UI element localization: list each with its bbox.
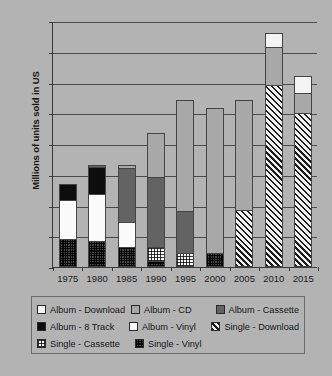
legend-swatch-icon <box>135 339 144 348</box>
x-axis-tick-label: 2015 <box>293 273 314 284</box>
bar-segment-album-vinyl <box>89 195 105 242</box>
stacked-bar[interactable] <box>265 33 283 267</box>
legend-item-album-cassette[interactable]: Album - Cassette <box>216 305 299 315</box>
bar-slot <box>230 22 259 267</box>
bar-segment-album-download <box>295 77 311 94</box>
x-axis-tick <box>318 267 319 271</box>
legend-label: Single - Cassette <box>50 339 120 349</box>
x-axis-tick-label: 2000 <box>204 273 225 284</box>
legend-item-single-vinyl[interactable]: Single - Vinyl <box>135 339 223 349</box>
x-axis-tick <box>171 267 172 271</box>
bar-segment-album-download <box>266 34 282 48</box>
legend-label: Album - Cassette <box>229 305 299 315</box>
stacked-bar[interactable] <box>206 108 224 267</box>
legend-swatch-icon <box>131 305 140 314</box>
bar-slot <box>171 22 200 267</box>
bar-segment-album-cd <box>207 109 223 254</box>
stacked-bar[interactable] <box>176 100 194 267</box>
stacked-bar[interactable] <box>88 165 106 267</box>
bar-segment-single-cassette <box>148 248 164 263</box>
bar-slot <box>112 22 141 267</box>
bar-segment-album-8track <box>60 185 76 202</box>
stacked-bar[interactable] <box>147 133 165 267</box>
bar-segment-album-cassette <box>119 169 135 223</box>
bar-segment-album-vinyl <box>119 223 135 248</box>
bar-segment-single-cassette <box>177 254 193 266</box>
legend-swatch-icon <box>37 339 46 348</box>
legend-item-album-8track[interactable]: Album - 8 Track <box>37 322 129 332</box>
legend-item-album-download[interactable]: Album - Download <box>37 305 131 315</box>
bar-segment-single-vinyl <box>89 242 105 266</box>
bar-slot <box>200 22 229 267</box>
x-axis-tick <box>53 267 54 271</box>
legend-swatch-icon <box>211 322 220 331</box>
legend-label: Single - Download <box>224 322 299 332</box>
bar-segment-single-vinyl <box>148 262 164 266</box>
legend-label: Album - Vinyl <box>142 322 196 332</box>
x-axis-tick <box>112 267 113 271</box>
stacked-bar[interactable] <box>59 184 77 267</box>
bar-segment-single-vinyl <box>60 240 76 266</box>
bar-segment-single-download <box>295 114 311 266</box>
bar-segment-single-download <box>266 86 282 266</box>
legend-swatch-icon <box>37 322 46 331</box>
bar-segment-album-cassette <box>148 178 164 248</box>
stacked-bar[interactable] <box>235 100 253 267</box>
legend-swatch-icon <box>37 305 46 314</box>
plot-area: 02004006008001000120014001600 1975198019… <box>52 22 317 268</box>
x-axis-tick <box>230 267 231 271</box>
bar-slot <box>82 22 111 267</box>
stacked-bar[interactable] <box>118 165 136 267</box>
bar-segment-single-vinyl <box>207 254 223 266</box>
chart-legend: Album - DownloadAlbum - CDAlbum - Casset… <box>31 296 305 354</box>
stacked-bar[interactable] <box>294 76 312 267</box>
x-axis-tick-label: 1980 <box>87 273 108 284</box>
x-axis-tick-label: 2010 <box>263 273 284 284</box>
legend-row: Album - DownloadAlbum - CDAlbum - Casset… <box>37 301 299 318</box>
bar-segment-album-cd <box>177 101 193 212</box>
legend-label: Single - Vinyl <box>148 339 201 349</box>
chart-container: Millions of units sold in US 02004006008… <box>0 0 332 376</box>
x-axis-tick <box>141 267 142 271</box>
bar-segment-album-cd <box>236 101 252 211</box>
bar-segment-album-vinyl <box>60 201 76 239</box>
legend-swatch-icon <box>129 322 138 331</box>
bar-slot <box>141 22 170 267</box>
bar-segment-album-cd <box>295 94 311 114</box>
x-axis-tick <box>200 267 201 271</box>
bar-segment-single-download <box>236 211 252 266</box>
legend-label: Album - 8 Track <box>50 322 114 332</box>
y-axis-title: Millions of units sold in US <box>30 36 41 226</box>
legend-label: Album - CD <box>144 305 191 315</box>
bar-slot <box>289 22 318 267</box>
x-axis-tick <box>82 267 83 271</box>
x-axis-tick-label: 1995 <box>175 273 196 284</box>
bar-segment-album-8track <box>89 168 105 196</box>
bar-segment-album-cd <box>148 134 164 178</box>
bar-segment-album-cd <box>266 48 282 86</box>
x-axis-tick-label: 1985 <box>116 273 137 284</box>
bar-slot <box>53 22 82 267</box>
legend-row: Single - CassetteSingle - Vinyl <box>37 335 299 352</box>
legend-row: Album - 8 TrackAlbum - VinylSingle - Dow… <box>37 318 299 335</box>
legend-rows: Album - DownloadAlbum - CDAlbum - Casset… <box>37 301 299 352</box>
bar-segment-album-cassette <box>177 212 193 254</box>
bar-slot <box>259 22 288 267</box>
legend-item-single-cassette[interactable]: Single - Cassette <box>37 339 135 349</box>
legend-item-album-cd[interactable]: Album - CD <box>131 305 215 315</box>
legend-label: Album - Download <box>50 305 125 315</box>
x-axis-tick-label: 1975 <box>57 273 78 284</box>
bar-segment-single-vinyl <box>119 248 135 266</box>
legend-item-single-download[interactable]: Single - Download <box>211 322 299 332</box>
legend-swatch-icon <box>216 305 225 314</box>
x-axis-tick <box>259 267 260 271</box>
bar-group: 197519801985199019952000200520102015 <box>53 22 317 267</box>
legend-item-album-vinyl[interactable]: Album - Vinyl <box>129 322 212 332</box>
x-axis-tick-label: 2005 <box>234 273 255 284</box>
x-axis-tick <box>289 267 290 271</box>
x-axis-tick-label: 1990 <box>145 273 166 284</box>
